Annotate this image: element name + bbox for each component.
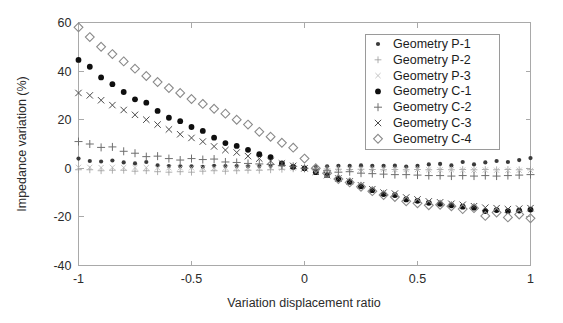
legend-item-label: Geometry C-4: [393, 132, 472, 146]
legend: Geometry P-1Geometry P-2Geometry P-3Geom…: [366, 35, 500, 150]
chart-figure: -1-0.500.51 -40-200204060 Variation disp…: [0, 0, 563, 323]
y-tick-label: 40: [58, 65, 72, 79]
y-tick-label: 60: [58, 16, 72, 30]
impedance-variation-scatter-plot: -1-0.500.51 -40-200204060 Variation disp…: [0, 0, 563, 323]
x-tick-label: 0: [301, 272, 308, 286]
y-tick-label: -40: [53, 259, 71, 273]
x-tick-label: 0.5: [409, 272, 426, 286]
y-tick-label: 20: [58, 113, 72, 127]
x-axis-tick-labels: -1-0.500.51: [73, 272, 534, 286]
legend-item-label: Geometry P-2: [393, 53, 471, 67]
x-tick-label: -1: [73, 272, 84, 286]
legend-item-label: Geometry C-3: [393, 116, 472, 130]
x-tick-label: -0.5: [181, 272, 203, 286]
x-axis-title: Variation displacement ratio: [227, 296, 380, 310]
x-tick-label: 1: [527, 272, 534, 286]
y-tick-label: -20: [53, 210, 71, 224]
legend-item-label: Geometry P-1: [393, 37, 471, 51]
legend-item-label: Geometry P-3: [393, 69, 471, 83]
legend-item-label: Geometry C-2: [393, 100, 472, 114]
y-axis-title: Impedance variation (%): [15, 76, 29, 211]
y-tick-label: 0: [65, 162, 72, 176]
y-axis-tick-labels: -40-200204060: [53, 16, 71, 273]
legend-item-label: Geometry C-1: [393, 84, 472, 98]
